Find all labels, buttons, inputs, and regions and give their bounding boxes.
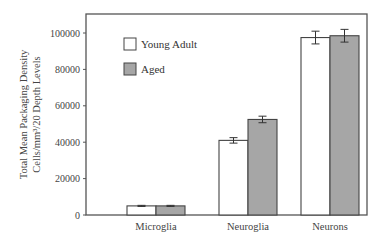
bar-microglia-aged <box>156 206 185 215</box>
bar-neurons-aged <box>330 36 359 215</box>
y-tick-label: 60000 <box>55 100 80 111</box>
bar-neuroglia-young-adult <box>219 140 248 215</box>
legend-label: Aged <box>141 63 165 75</box>
bar-microglia-young-adult <box>127 206 156 215</box>
y-axis: 020000400006000080000100000 <box>50 28 86 221</box>
x-axis: MicrogliaNeurogliaNeurons <box>135 221 347 232</box>
legend-swatch-aged <box>124 63 136 75</box>
x-category-label: Neuroglia <box>227 221 269 232</box>
y-label-line-2: Cells/mm³/20 Depth Levels <box>31 56 42 172</box>
bar-neuroglia-aged <box>248 119 277 215</box>
y-axis-label: Total Mean Packaging DensityCells/mm³/20… <box>18 49 42 179</box>
y-tick-label: 100000 <box>50 28 80 39</box>
legend-swatch-young-adult <box>124 38 136 50</box>
bar-neurons-young-adult <box>301 38 330 215</box>
x-category-label: Neurons <box>312 221 348 232</box>
y-label-line-1: Total Mean Packaging Density <box>18 49 29 179</box>
bar-chart: 020000400006000080000100000 MicrogliaNeu… <box>0 0 386 242</box>
legend: Young AdultAged <box>124 38 197 75</box>
y-tick-label: 80000 <box>55 64 80 75</box>
y-tick-label: 0 <box>75 210 80 221</box>
y-tick-label: 40000 <box>55 137 80 148</box>
x-category-label: Microglia <box>135 221 177 232</box>
legend-label: Young Adult <box>141 38 197 50</box>
bars <box>127 29 359 215</box>
y-tick-label: 20000 <box>55 173 80 184</box>
